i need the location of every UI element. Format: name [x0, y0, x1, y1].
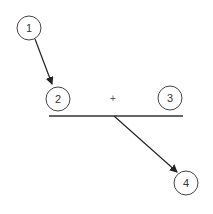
diagram-canvas: 1 2 + 3 4 — [0, 0, 213, 214]
node-2-label: 2 — [55, 93, 61, 105]
plus-operator: + — [110, 93, 116, 104]
node-1-label: 1 — [26, 22, 32, 34]
arrow-1-to-2 — [35, 39, 52, 84]
node-3-label: 3 — [167, 92, 173, 104]
arrow-bar-to-4 — [114, 116, 177, 172]
node-1: 1 — [17, 16, 41, 40]
node-4-label: 4 — [183, 177, 189, 189]
node-2: 2 — [46, 87, 70, 111]
node-3: 3 — [158, 86, 182, 110]
node-4: 4 — [174, 171, 198, 195]
